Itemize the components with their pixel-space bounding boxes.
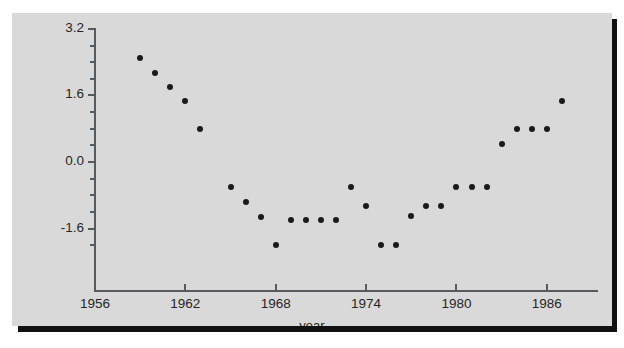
x-tick bbox=[275, 284, 277, 292]
data-point bbox=[318, 217, 324, 223]
y-tick-label: 0.0 bbox=[12, 153, 84, 168]
data-point bbox=[438, 203, 444, 209]
data-point bbox=[348, 184, 354, 190]
data-point bbox=[288, 217, 294, 223]
data-point bbox=[273, 242, 279, 248]
y-tick-major bbox=[88, 28, 96, 30]
data-point bbox=[453, 184, 459, 190]
y-tick-major bbox=[88, 228, 96, 230]
y-tick-minor bbox=[90, 194, 96, 196]
plot-panel: -1.60.01.63.2 195619621968197419801986 y… bbox=[12, 13, 612, 326]
data-point bbox=[333, 217, 339, 223]
data-point bbox=[303, 217, 309, 223]
data-point bbox=[408, 213, 414, 219]
x-tick bbox=[546, 284, 548, 292]
data-point bbox=[514, 126, 520, 132]
x-tick-label: 1962 bbox=[155, 296, 215, 311]
data-point bbox=[559, 98, 565, 104]
data-point bbox=[363, 203, 369, 209]
data-point bbox=[243, 199, 249, 205]
y-tick-minor bbox=[90, 144, 96, 146]
data-point bbox=[544, 126, 550, 132]
figure-canvas: -1.60.01.63.2 195619621968197419801986 y… bbox=[0, 0, 624, 348]
data-point bbox=[469, 184, 475, 190]
x-tick bbox=[365, 284, 367, 292]
data-point bbox=[393, 242, 399, 248]
y-tick-label: 3.2 bbox=[12, 20, 84, 35]
x-tick bbox=[94, 284, 96, 292]
y-tick-minor bbox=[90, 244, 96, 246]
data-point bbox=[423, 203, 429, 209]
y-tick-major bbox=[88, 161, 96, 163]
x-tick-label: 1986 bbox=[517, 296, 577, 311]
y-tick-minor bbox=[90, 61, 96, 63]
data-point bbox=[529, 126, 535, 132]
data-point bbox=[258, 214, 264, 220]
y-tick-minor bbox=[90, 211, 96, 213]
x-tick-label: 1956 bbox=[65, 296, 125, 311]
y-tick-minor bbox=[90, 111, 96, 113]
y-tick-minor bbox=[90, 128, 96, 130]
data-point bbox=[484, 184, 490, 190]
y-axis-line bbox=[94, 29, 96, 291]
y-tick-minor bbox=[90, 45, 96, 47]
y-tick-major bbox=[88, 94, 96, 96]
y-tick-minor bbox=[90, 178, 96, 180]
data-point bbox=[197, 126, 203, 132]
y-tick-label: 1.6 bbox=[12, 86, 84, 101]
x-tick bbox=[184, 284, 186, 292]
data-point bbox=[499, 141, 505, 147]
data-point bbox=[378, 242, 384, 248]
data-point bbox=[152, 70, 158, 76]
scatter-plot: -1.60.01.63.2 195619621968197419801986 y… bbox=[12, 13, 612, 326]
data-point bbox=[182, 98, 188, 104]
data-point bbox=[228, 184, 234, 190]
x-tick bbox=[455, 284, 457, 292]
x-axis-line bbox=[94, 290, 598, 292]
x-tick-label: 1980 bbox=[426, 296, 486, 311]
y-tick-label: -1.6 bbox=[12, 220, 84, 235]
x-tick-label: 1974 bbox=[336, 296, 396, 311]
x-axis-title: year bbox=[12, 318, 612, 326]
data-point bbox=[167, 84, 173, 90]
data-point bbox=[137, 55, 143, 61]
y-tick-minor bbox=[90, 78, 96, 80]
x-tick-label: 1968 bbox=[246, 296, 306, 311]
